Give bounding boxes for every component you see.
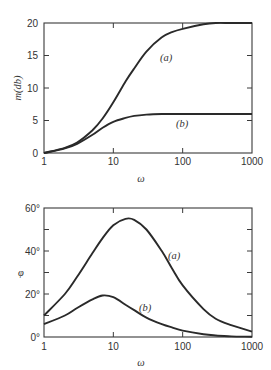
x-tick-1000: 1000	[241, 156, 264, 167]
y-axis-label: m(db)	[12, 75, 24, 101]
x-axis-label: ω	[137, 173, 144, 184]
x-tick-100: 100	[174, 341, 191, 352]
y-tick-60deg: 60°	[25, 203, 40, 214]
magnitude-plot-frame	[44, 23, 252, 153]
series-b-label: (b)	[139, 302, 152, 314]
magnitude-ticks	[44, 23, 252, 153]
phase-plot: 0° 20° 40° 60° 1 10 100 1000 ω φ (a) (b)	[18, 203, 263, 369]
y-tick-5: 5	[32, 115, 38, 126]
x-tick-1: 1	[41, 156, 47, 167]
x-tick-100: 100	[174, 156, 191, 167]
series-a-label: (a)	[168, 250, 181, 262]
y-tick-0: 0	[32, 148, 38, 159]
series-a-label: (a)	[160, 52, 173, 64]
x-axis-label: ω	[137, 357, 144, 368]
y-tick-40deg: 40°	[25, 246, 40, 257]
x-tick-10: 10	[108, 341, 120, 352]
y-tick-0deg: 0°	[30, 332, 40, 343]
magnitude-plot: 0 5 10 15 20 1 10 100 1000 ω m(db) (a) (…	[12, 18, 264, 185]
x-tick-1000: 1000	[241, 341, 264, 352]
series-b-label: (b)	[176, 118, 189, 130]
y-tick-20: 20	[27, 18, 39, 29]
series-a-curve	[44, 218, 252, 331]
x-tick-1: 1	[41, 341, 47, 352]
series-a-curve	[44, 23, 252, 153]
x-tick-10: 10	[108, 156, 120, 167]
y-tick-10: 10	[27, 83, 39, 94]
y-axis-label: φ	[18, 267, 24, 278]
series-b-curve	[44, 114, 252, 153]
bode-plot-figure: 0 5 10 15 20 1 10 100 1000 ω m(db) (a) (…	[0, 0, 271, 370]
y-tick-20deg: 20°	[25, 289, 40, 300]
y-tick-15: 15	[27, 50, 39, 61]
